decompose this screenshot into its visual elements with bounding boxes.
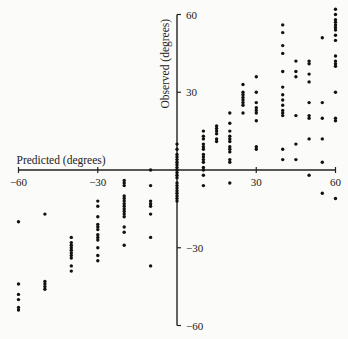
data-point [281, 114, 284, 117]
data-point [307, 62, 310, 65]
data-point [307, 137, 310, 140]
data-point [17, 298, 20, 301]
data-point [70, 264, 73, 267]
data-point [123, 225, 126, 228]
x-tick-label: 30 [251, 176, 263, 188]
data-point [281, 98, 284, 101]
data-point [307, 117, 310, 120]
data-point [123, 244, 126, 247]
data-point [281, 104, 284, 107]
data-point [96, 199, 99, 202]
data-point [123, 215, 126, 218]
data-point [175, 199, 178, 202]
data-point [149, 168, 152, 171]
data-point [70, 269, 73, 272]
data-point [321, 192, 324, 195]
data-point [43, 288, 46, 291]
data-point [294, 59, 297, 62]
data-point [321, 36, 324, 39]
data-point [202, 148, 205, 151]
y-tick-label: 60 [186, 9, 198, 21]
data-point [149, 236, 152, 239]
data-point [228, 122, 231, 125]
data-point [294, 75, 297, 78]
data-point [241, 83, 244, 86]
data-point [281, 44, 284, 47]
data-point [228, 150, 231, 153]
data-point [202, 137, 205, 140]
data-point [321, 101, 324, 104]
data-point [70, 256, 73, 259]
data-point [123, 184, 126, 187]
data-point [202, 168, 205, 171]
data-point [175, 148, 178, 151]
data-point [281, 158, 284, 161]
y-tick-label: 30 [186, 86, 198, 98]
data-point [215, 140, 218, 143]
data-point [334, 65, 337, 68]
x-tick-label: −60 [10, 176, 28, 188]
data-point [96, 228, 99, 231]
data-point [281, 52, 284, 55]
data-point [202, 129, 205, 132]
data-point [96, 205, 99, 208]
data-point [334, 39, 337, 42]
data-point [307, 101, 310, 104]
data-point [307, 80, 310, 83]
data-point [43, 212, 46, 215]
data-point [294, 142, 297, 145]
data-point [294, 158, 297, 161]
data-point [334, 13, 337, 16]
data-point [241, 104, 244, 107]
y-tick-label: −30 [186, 242, 204, 254]
data-point [149, 264, 152, 267]
data-point [202, 184, 205, 187]
data-point [334, 197, 337, 200]
data-point [281, 148, 284, 151]
data-point [281, 93, 284, 96]
data-point [202, 174, 205, 177]
data-point [17, 220, 20, 223]
y-axis-label: Observed (degrees) [159, 19, 172, 109]
data-point [334, 28, 337, 31]
data-point [96, 215, 99, 218]
data-point [215, 132, 218, 135]
data-point [281, 31, 284, 34]
data-point [149, 184, 152, 187]
data-point [149, 205, 152, 208]
plot-area: −60−3030606030−30−60Predicted (degrees)O… [0, 0, 348, 339]
data-point [334, 54, 337, 57]
data-point [255, 111, 258, 114]
data-point [307, 174, 310, 177]
data-point [202, 161, 205, 164]
data-point [228, 140, 231, 143]
data-point [228, 111, 231, 114]
x-tick-label: −30 [89, 176, 107, 188]
data-point [321, 117, 324, 120]
data-point [17, 308, 20, 311]
data-point [255, 91, 258, 94]
data-point [321, 161, 324, 164]
data-point [281, 23, 284, 26]
data-point [294, 114, 297, 117]
x-tick-label: 60 [330, 176, 342, 188]
data-point [321, 137, 324, 140]
y-tick-label: −60 [186, 320, 204, 332]
data-point [70, 236, 73, 239]
data-point [17, 282, 20, 285]
data-point [255, 148, 258, 151]
x-axis-label: Predicted (degrees) [17, 154, 106, 167]
data-point [307, 72, 310, 75]
data-point [334, 34, 337, 37]
data-point [96, 254, 99, 257]
data-point [334, 119, 337, 122]
data-point [96, 246, 99, 249]
data-point [241, 111, 244, 114]
data-point [228, 161, 231, 164]
data-point [123, 231, 126, 234]
data-point [228, 129, 231, 132]
data-point [255, 101, 258, 104]
data-point [281, 70, 284, 73]
data-point [228, 181, 231, 184]
data-point [149, 212, 152, 215]
